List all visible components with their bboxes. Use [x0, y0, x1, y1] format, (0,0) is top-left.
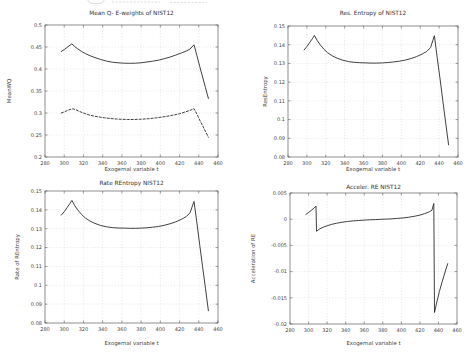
y-tick-label: 0.12 — [31, 244, 42, 250]
x-tick-label: 380 — [136, 160, 146, 166]
y-tick-label: 0.14 — [31, 207, 42, 213]
y-tick-label: 0.45 — [31, 44, 42, 50]
y-tick-label: 0.08 — [31, 320, 42, 326]
x-tick-label: 440 — [434, 160, 444, 166]
y-tick-label: -0.005 — [271, 242, 287, 248]
x-tick-label: 300 — [59, 326, 69, 332]
y-axis-label: Rate of REntropy — [14, 233, 21, 279]
y-tick-label: 0.11 — [31, 263, 42, 269]
x-tick-label: 400 — [397, 160, 407, 166]
y-tick-label: 0.09 — [31, 301, 42, 307]
x-tick-label: 340 — [98, 160, 108, 166]
y-axis-label: Acceleration of RE — [250, 233, 256, 283]
y-tick-label: -0.02 — [274, 321, 287, 327]
y-tick-label: 0.15 — [31, 188, 42, 194]
x-tick-label: 280 — [283, 160, 293, 166]
y-tick-label: 0.09 — [274, 135, 285, 141]
plot-area: 2803003203403603804004204404600.080.090.… — [31, 188, 223, 332]
x-axis-label: Exogernal variable t — [104, 340, 158, 347]
y-tick-label: 0.14 — [274, 42, 285, 48]
plot-title: Acceler. RE NIST12 — [346, 184, 401, 190]
x-tick-label: 420 — [175, 326, 185, 332]
x-axis-label: Exogernal variable t — [346, 166, 400, 173]
y-tick-label: 0.11 — [274, 98, 285, 104]
plot-title: Mean Q- E-weights of NIST12 — [89, 10, 174, 17]
axis-box — [45, 191, 218, 323]
x-tick-label: 440 — [434, 327, 444, 333]
y-tick-label: 0.1 — [34, 282, 42, 288]
y-tick-label: 0.005 — [273, 190, 287, 196]
plot-res-entropy: 2803003203403603804004204404600.080.090.… — [238, 0, 476, 178]
figure-canvas: 2803003203403603804004204404600.20.250.3… — [0, 0, 476, 355]
x-tick-label: 440 — [194, 326, 204, 332]
plot-rate-rentropy: 2803003203403603804004204404600.080.090.… — [0, 178, 238, 355]
plot-area: 280300320340360380400420440460-0.02-0.01… — [271, 190, 462, 333]
x-tick-label: 340 — [340, 160, 350, 166]
x-tick-label: 460 — [452, 327, 462, 333]
x-tick-label: 280 — [40, 326, 50, 332]
y-axis-label: ResEntropy — [262, 75, 269, 106]
x-tick-label: 400 — [156, 160, 166, 166]
plot-area: 2803003203403603804004204404600.20.250.3… — [31, 22, 223, 166]
x-tick-label: 380 — [136, 326, 146, 332]
x-tick-label: 460 — [453, 160, 463, 166]
y-tick-label: -0.01 — [274, 268, 287, 274]
x-tick-label: 340 — [98, 326, 108, 332]
x-tick-label: 460 — [213, 326, 223, 332]
axis-box — [290, 193, 457, 324]
x-tick-label: 320 — [79, 160, 89, 166]
x-tick-label: 300 — [302, 160, 312, 166]
x-tick-label: 400 — [397, 327, 407, 333]
x-tick-label: 300 — [59, 160, 69, 166]
x-tick-label: 440 — [194, 160, 204, 166]
axis-box — [288, 26, 458, 157]
y-tick-label: 0.35 — [31, 88, 42, 94]
plot-title: Res. Entropy of NIST12 — [340, 10, 407, 17]
plot-area: 2803003203403603804004204404600.080.090.… — [274, 23, 463, 166]
x-tick-label: 340 — [341, 327, 351, 333]
y-tick-label: 0.13 — [31, 226, 42, 232]
x-tick-label: 380 — [378, 160, 388, 166]
y-tick-label: 0.15 — [274, 23, 285, 29]
y-tick-label: 0.12 — [274, 79, 285, 85]
y-tick-label: 0.25 — [31, 132, 42, 138]
x-tick-label: 300 — [304, 327, 314, 333]
plot-title: Rate REntropy NIST12 — [99, 180, 163, 187]
x-tick-label: 360 — [359, 327, 369, 333]
x-tick-label: 320 — [321, 160, 331, 166]
plot-acceler-re: 280300320340360380400420440460-0.02-0.01… — [238, 178, 476, 355]
x-tick-label: 460 — [213, 160, 223, 166]
x-tick-label: 360 — [117, 160, 127, 166]
x-tick-label: 420 — [175, 160, 185, 166]
series-mean-wq-solid — [61, 44, 208, 99]
y-tick-label: 0.5 — [34, 22, 42, 28]
x-tick-label: 320 — [322, 327, 332, 333]
y-tick-label: 0.2 — [34, 154, 42, 160]
y-tick-label: -0.015 — [271, 295, 287, 301]
plot-mean-q-e-weights: 2803003203403603804004204404600.20.250.3… — [0, 0, 238, 178]
x-tick-label: 280 — [40, 160, 50, 166]
x-tick-label: 420 — [415, 327, 425, 333]
x-tick-label: 320 — [79, 326, 89, 332]
x-tick-label: 380 — [378, 327, 388, 333]
y-tick-label: 0.3 — [34, 110, 42, 116]
y-axis-label: MeanWQ — [6, 79, 12, 103]
x-tick-label: 400 — [156, 326, 166, 332]
y-tick-label: 0.13 — [274, 60, 285, 66]
x-axis-label: Exogernal variable t — [104, 166, 158, 173]
y-tick-label: 0.4 — [34, 66, 42, 72]
x-axis-label: Exogernal variable t — [346, 340, 400, 347]
x-tick-label: 420 — [415, 160, 425, 166]
y-tick-label: 0.08 — [274, 154, 285, 160]
x-tick-label: 360 — [117, 326, 127, 332]
x-tick-label: 280 — [285, 327, 295, 333]
y-tick-label: 0.1 — [277, 116, 285, 122]
y-tick-label: 0 — [284, 216, 287, 222]
x-tick-label: 360 — [359, 160, 369, 166]
